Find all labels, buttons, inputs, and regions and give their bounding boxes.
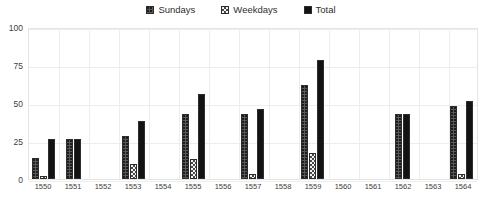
bar-weekdays-1559[interactable] [309, 153, 316, 179]
x-axis-tick-label: 1561 [358, 182, 388, 196]
bar-total-1553[interactable] [138, 121, 145, 179]
bar-group-1561 [357, 29, 387, 179]
x-axis-tick-label: 1560 [328, 182, 358, 196]
x-axis-tick-label: 1552 [88, 182, 118, 196]
bar-total-1564[interactable] [466, 101, 473, 179]
bar-weekdays-1564[interactable] [458, 174, 465, 179]
bar-group-1556 [208, 29, 238, 179]
x-axis-labels: 1550155115521553155415551556155715581559… [28, 182, 478, 196]
bar-chart: SundaysWeekdaysTotal 0255075100 15501551… [0, 0, 482, 198]
bar-weekdays-1555[interactable] [190, 159, 197, 179]
y-axis-tick-label: 0 [18, 176, 23, 185]
chart-legend: SundaysWeekdaysTotal [0, 3, 482, 17]
x-axis-tick-label: 1555 [178, 182, 208, 196]
bar-group-1553 [119, 29, 149, 179]
bar-total-1555[interactable] [198, 94, 205, 179]
x-axis-tick-label: 1557 [238, 182, 268, 196]
bar-group-1554 [148, 29, 178, 179]
x-axis-tick-label: 1564 [448, 182, 478, 196]
legend-label: Total [316, 5, 336, 15]
legend-item-weekdays[interactable]: Weekdays [221, 5, 277, 15]
bar-sundays-1564[interactable] [450, 106, 457, 179]
dark-dotted-swatch [146, 6, 154, 14]
bar-sundays-1559[interactable] [301, 85, 308, 179]
bar-total-1562[interactable] [403, 114, 410, 179]
y-axis-tick-label: 100 [9, 24, 23, 33]
x-axis-tick-label: 1553 [118, 182, 148, 196]
legend-item-sundays[interactable]: Sundays [146, 5, 195, 15]
bar-group-1551 [59, 29, 89, 179]
bar-group-1563 [417, 29, 447, 179]
bar-group-1557 [238, 29, 268, 179]
bar-group-1550 [29, 29, 59, 179]
bar-groups [29, 29, 477, 179]
y-axis-labels: 0255075100 [0, 0, 26, 198]
bar-sundays-1557[interactable] [241, 114, 248, 179]
legend-label: Sundays [158, 5, 195, 15]
y-axis-tick-label: 75 [14, 62, 23, 71]
bar-weekdays-1553[interactable] [130, 164, 137, 179]
x-axis-tick-label: 1554 [148, 182, 178, 196]
x-axis-tick-label: 1551 [58, 182, 88, 196]
x-axis-tick-label: 1562 [388, 182, 418, 196]
bar-sundays-1555[interactable] [182, 114, 189, 179]
bar-group-1552 [89, 29, 119, 179]
bar-sundays-1553[interactable] [122, 136, 129, 179]
plot-area [28, 28, 478, 180]
bar-total-1559[interactable] [317, 60, 324, 179]
bar-sundays-1550[interactable] [32, 158, 39, 179]
bar-total-1550[interactable] [48, 139, 55, 179]
bar-total-1557[interactable] [257, 109, 264, 179]
bar-sundays-1562[interactable] [395, 114, 402, 179]
legend-label: Weekdays [233, 5, 277, 15]
bar-group-1564 [447, 29, 477, 179]
bar-group-1562 [387, 29, 417, 179]
bar-group-1558 [268, 29, 298, 179]
bar-group-1560 [328, 29, 358, 179]
solid-black-swatch [304, 6, 312, 14]
y-axis-tick-label: 50 [14, 100, 23, 109]
bar-group-1559 [298, 29, 328, 179]
legend-item-total[interactable]: Total [304, 5, 336, 15]
x-axis-tick-label: 1550 [28, 182, 58, 196]
y-axis-tick-label: 25 [14, 138, 23, 147]
bar-total-1551[interactable] [74, 139, 81, 179]
x-axis-tick-label: 1559 [298, 182, 328, 196]
bar-group-1555 [178, 29, 208, 179]
bar-weekdays-1557[interactable] [249, 174, 256, 179]
x-axis-tick-label: 1556 [208, 182, 238, 196]
light-checkered-swatch [221, 6, 229, 14]
x-axis-tick-label: 1563 [418, 182, 448, 196]
bar-weekdays-1550[interactable] [40, 176, 47, 179]
bar-sundays-1551[interactable] [66, 139, 73, 179]
x-axis-tick-label: 1558 [268, 182, 298, 196]
